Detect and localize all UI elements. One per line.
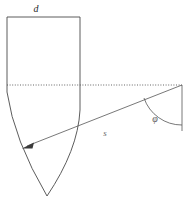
figure-canvas: d s φ — [0, 0, 188, 209]
phi-angle-arc — [144, 98, 182, 125]
label-phi: φ — [152, 113, 158, 124]
geometry-figure: d s φ — [0, 0, 188, 209]
label-d: d — [34, 3, 40, 14]
slant-distance-arrowhead — [22, 143, 34, 149]
label-s: s — [103, 128, 107, 138]
bullet-outline — [7, 17, 80, 196]
